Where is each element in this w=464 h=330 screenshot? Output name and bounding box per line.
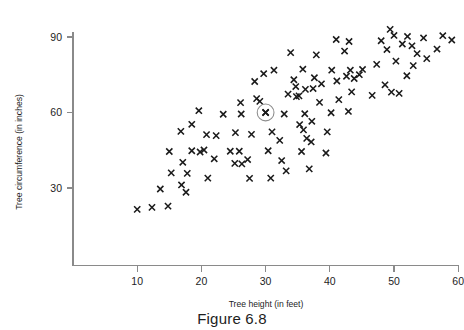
data-point [333, 36, 339, 42]
data-points [134, 26, 455, 212]
data-point [277, 137, 283, 143]
data-point [279, 157, 285, 163]
data-point [356, 72, 362, 78]
data-point [313, 52, 319, 58]
figure-container: 306090102030405060 Tree height (in feet)… [0, 0, 464, 330]
data-point [157, 186, 163, 192]
data-point [203, 132, 209, 138]
data-point [281, 111, 287, 117]
data-point [232, 130, 238, 136]
data-point [252, 78, 258, 84]
data-point [336, 97, 342, 103]
data-point [149, 204, 155, 210]
data-point [302, 86, 308, 92]
y-tick-label-30: 30 [50, 182, 62, 194]
data-point [349, 89, 355, 95]
data-point [399, 41, 405, 47]
y-axis-label: Tree circumference (in inches) [14, 94, 24, 210]
x-tick-label-40: 40 [324, 275, 336, 287]
data-point [387, 26, 393, 32]
data-point [351, 75, 357, 81]
data-point [238, 111, 244, 117]
data-point [329, 67, 335, 73]
data-point [382, 82, 388, 88]
data-point [268, 175, 274, 181]
x-tick-label-20: 20 [196, 275, 208, 287]
data-point [410, 63, 416, 69]
data-point [189, 121, 195, 127]
highlighted-point [257, 104, 274, 121]
data-point [248, 131, 254, 137]
data-point [168, 170, 174, 176]
data-point [261, 71, 267, 77]
data-point [189, 148, 195, 154]
data-point [343, 73, 349, 79]
data-point [285, 91, 291, 97]
axis-tick-labels: 306090102030405060 [50, 31, 464, 287]
data-point [324, 129, 330, 135]
data-point [211, 156, 217, 162]
data-point [309, 118, 315, 124]
data-point [404, 73, 410, 79]
data-point [369, 92, 375, 98]
data-point [404, 33, 410, 39]
data-point [328, 110, 334, 116]
data-point [318, 81, 324, 87]
data-point [184, 170, 190, 176]
scatter-plot: 306090102030405060 Tree height (in feet)… [0, 0, 464, 330]
y-tick-label-90: 90 [50, 31, 62, 43]
data-point [300, 66, 306, 72]
x-tick-label-50: 50 [388, 275, 400, 287]
data-point [265, 148, 271, 154]
data-point [205, 175, 211, 181]
data-point [420, 35, 426, 41]
data-point [308, 139, 314, 145]
data-point [334, 78, 340, 84]
data-point [359, 66, 365, 72]
data-point [384, 46, 390, 52]
data-point [396, 90, 402, 96]
data-point [414, 50, 420, 56]
data-point [213, 133, 219, 139]
data-point [434, 46, 440, 52]
data-point [298, 148, 304, 154]
data-point [291, 77, 297, 83]
data-point [347, 67, 353, 73]
data-point [374, 61, 380, 67]
data-point [257, 98, 263, 104]
data-point [424, 56, 430, 62]
x-tick-label-60: 60 [452, 275, 464, 287]
x-axis-label: Tree height (in feet) [229, 299, 304, 309]
data-point [283, 168, 289, 174]
y-tick-label-60: 60 [50, 106, 62, 118]
data-point [288, 49, 294, 55]
data-point [388, 89, 394, 95]
data-point [341, 48, 347, 54]
data-point [165, 203, 171, 209]
data-point [245, 156, 251, 162]
data-point [393, 58, 399, 64]
highlighted-data-point [263, 109, 269, 115]
data-point [391, 32, 397, 38]
data-point [178, 128, 184, 134]
data-point [323, 150, 329, 156]
data-point [166, 148, 172, 154]
data-point [196, 108, 202, 114]
data-point [239, 161, 245, 167]
data-point [232, 160, 238, 166]
data-point [300, 127, 306, 133]
data-point [378, 38, 384, 44]
data-point [271, 67, 277, 73]
data-point [409, 43, 415, 49]
data-point [302, 111, 308, 117]
data-point [236, 148, 242, 154]
figure-caption: Figure 6.8 [0, 310, 464, 327]
data-point [346, 38, 352, 44]
data-point [134, 206, 140, 212]
data-point [345, 108, 351, 114]
data-point [227, 148, 233, 154]
data-point [178, 182, 184, 188]
data-point [449, 37, 455, 43]
data-point [180, 159, 186, 165]
data-point [237, 100, 243, 106]
